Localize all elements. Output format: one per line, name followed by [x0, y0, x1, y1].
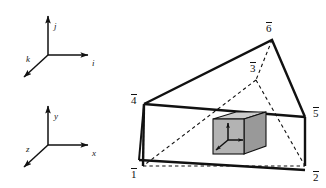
vertex-1-glyph: 1: [131, 169, 137, 180]
overbar-6: [266, 22, 272, 23]
vertex-label-2: 2: [313, 171, 319, 183]
vertex-6-glyph: 6: [266, 23, 272, 34]
edge-front-sill: [139, 160, 305, 170]
shaded-cube-element: [213, 112, 266, 154]
vertex-label-6: 6: [266, 22, 272, 34]
overbar-3: [250, 62, 256, 63]
axis-label-y: y: [54, 112, 58, 121]
vertex-label-4: 4: [131, 94, 137, 106]
vertex-5-bar-wrap: 5: [313, 107, 319, 119]
vertex-label-1: 1: [131, 168, 137, 180]
axis-label-z: z: [26, 145, 30, 154]
axis-label-x: x: [92, 149, 96, 158]
figure-root: i j k x y z 6 3 4 5 1: [0, 0, 326, 188]
vertex-label-5: 5: [313, 107, 319, 119]
overbar-5: [313, 107, 319, 108]
vertex-4-glyph: 4: [131, 95, 137, 106]
overbar-1: [131, 168, 137, 169]
axis-label-i: i: [92, 59, 95, 68]
vertex-5-glyph: 5: [313, 108, 319, 119]
vertex-6-bar-wrap: 6: [266, 22, 272, 34]
overbar-4: [131, 94, 137, 95]
vertex-3-glyph: 3: [250, 63, 256, 74]
vertex-3-bar-wrap: 3: [250, 62, 256, 74]
cube-face-right: [244, 112, 266, 154]
overbar-2: [313, 171, 319, 172]
vertex-2-bar-wrap: 2: [313, 171, 319, 183]
vertex-2-glyph: 2: [313, 172, 319, 183]
axis-label-k: k: [26, 55, 30, 64]
vertex-label-3: 3: [250, 62, 256, 74]
vertex-4-bar-wrap: 4: [131, 94, 137, 106]
vertex-1-bar-wrap: 1: [131, 168, 137, 180]
diagram-canvas: [0, 0, 326, 188]
axis-label-j: j: [54, 22, 57, 31]
